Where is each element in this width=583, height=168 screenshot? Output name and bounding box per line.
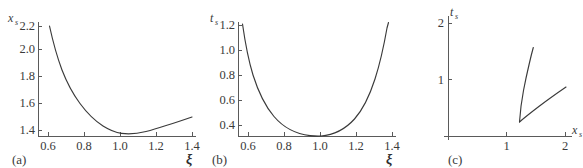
panel-b-tag: (b) bbox=[212, 152, 227, 167]
panel-b-xticklabel-4: 1.4 bbox=[384, 139, 400, 153]
panel-b-yticklabel-1: 0.6 bbox=[219, 93, 235, 107]
panel-c-y-axis-label: t bbox=[450, 5, 454, 19]
panel-c-x-ticks bbox=[507, 132, 566, 136]
panel-c-xticklabel-1: 2 bbox=[562, 139, 568, 153]
panel-c-svg: 1 2 1 2 t s x s (c) bbox=[400, 0, 583, 168]
panel-b-x-ticks bbox=[248, 132, 392, 136]
panel-b-yticklabel-0: 0.4 bbox=[219, 118, 235, 132]
panel-b-xticklabel-2: 1.0 bbox=[312, 139, 328, 153]
panel-b-xticklabel-3: 1.2 bbox=[348, 139, 364, 153]
panel-b-yticklabel-2: 0.8 bbox=[219, 68, 235, 82]
panel-b-y-axis-label: t bbox=[210, 11, 214, 25]
panel-c-x-axis-label: x bbox=[571, 123, 578, 137]
chart-panel-a: 0.6 0.8 1.0 1.2 1.4 1.4 1.6 1.8 2.0 2.2 … bbox=[0, 0, 200, 168]
panel-c-xticklabel-0: 1 bbox=[503, 139, 509, 153]
panel-a-yticklabel-0: 1.4 bbox=[19, 123, 35, 137]
panel-c-y-ticks bbox=[448, 23, 452, 80]
chart-panel-c: 1 2 1 2 t s x s (c) bbox=[400, 0, 583, 168]
panel-c-tag: (c) bbox=[448, 152, 462, 167]
panel-b-yticklabel-4: 1.2 bbox=[219, 18, 235, 32]
panel-b-xticklabel-1: 0.8 bbox=[276, 139, 292, 153]
panel-a-yticklabel-4: 2.2 bbox=[19, 19, 35, 33]
panel-b-yticklabel-3: 1.0 bbox=[219, 43, 235, 57]
panel-c-yticklabel-0: 1 bbox=[438, 73, 444, 87]
chart-panel-b: 0.6 0.8 1.0 1.2 1.4 0.4 0.6 0.8 1.0 1.2 … bbox=[200, 0, 400, 168]
panel-a-x-axis-label: ξ bbox=[186, 152, 193, 167]
panel-a-xticklabel-3: 1.2 bbox=[148, 139, 164, 153]
panel-a-yticklabel-2: 1.8 bbox=[19, 69, 35, 83]
panel-c-x-axis-label-sub: s bbox=[579, 130, 582, 139]
panel-a-y-ticks bbox=[38, 26, 42, 130]
panel-a-yticklabel-1: 1.6 bbox=[19, 96, 35, 110]
panel-c-y-axis-label-sub: s bbox=[455, 12, 458, 21]
panel-a-xticklabel-2: 1.0 bbox=[112, 139, 128, 153]
panel-a-y-axis-label-sub: s bbox=[15, 18, 18, 27]
panel-c-yticklabel-1: 2 bbox=[438, 16, 444, 30]
panel-b-y-ticks bbox=[238, 25, 242, 125]
panel-b-xticklabel-0: 0.6 bbox=[240, 139, 256, 153]
panel-a-yticklabel-3: 2.0 bbox=[19, 42, 35, 56]
panel-a-y-axis-label: x bbox=[7, 11, 14, 25]
panel-a-curve bbox=[50, 26, 193, 134]
panel-a-xticklabel-1: 0.8 bbox=[76, 139, 92, 153]
panel-a-svg: 0.6 0.8 1.0 1.2 1.4 1.4 1.6 1.8 2.0 2.2 … bbox=[0, 0, 200, 168]
panel-c-cusp-lower-branch bbox=[520, 87, 567, 122]
panel-a-xticklabel-4: 1.4 bbox=[184, 139, 200, 153]
panel-b-curve bbox=[243, 23, 389, 137]
panel-c-cusp-upper-branch bbox=[520, 48, 534, 123]
panel-a-xticklabel-0: 0.6 bbox=[40, 139, 56, 153]
panel-b-y-axis-label-sub: s bbox=[215, 18, 218, 27]
panel-b-svg: 0.6 0.8 1.0 1.2 1.4 0.4 0.6 0.8 1.0 1.2 … bbox=[200, 0, 400, 168]
panel-a-tag: (a) bbox=[12, 152, 26, 167]
figure-container: 0.6 0.8 1.0 1.2 1.4 1.4 1.6 1.8 2.0 2.2 … bbox=[0, 0, 583, 168]
panel-b-x-axis-label: ξ bbox=[386, 152, 393, 167]
